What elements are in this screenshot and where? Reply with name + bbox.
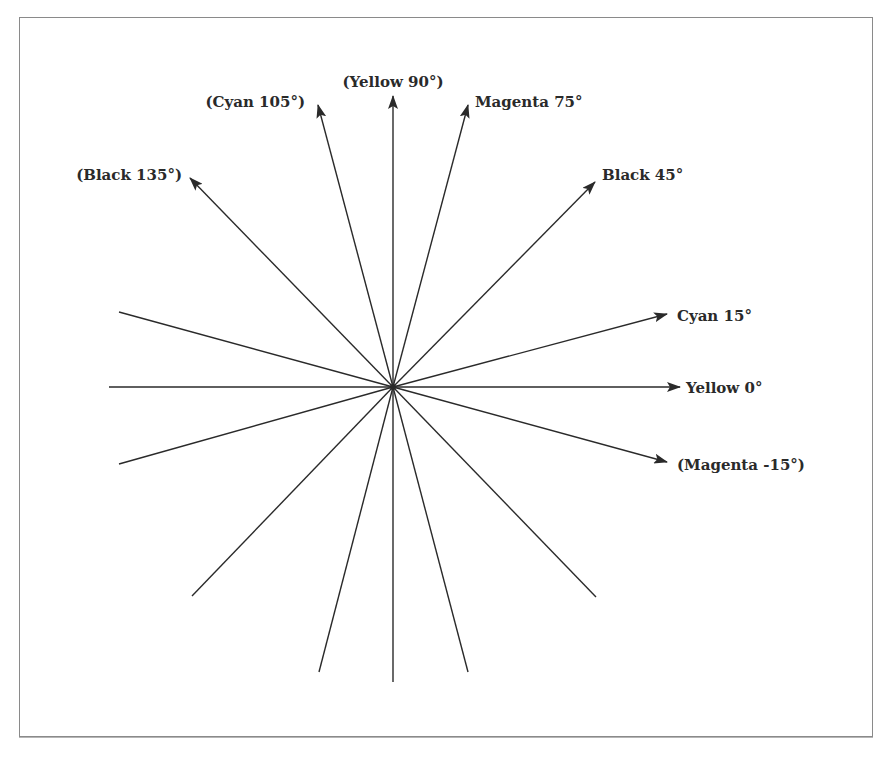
plain-lines-group <box>109 312 596 682</box>
screen-angle-diagram: Yellow 0°Cyan 15°Black 45°Magenta 75°(Ye… <box>0 0 892 762</box>
arrow-magenta-neg15-icon <box>393 387 667 462</box>
arrow-cyan-105-icon <box>318 105 393 387</box>
label-cyan-15: Cyan 15° <box>677 307 752 325</box>
ray-line-150 <box>119 312 393 387</box>
label-black-45: Black 45° <box>602 166 683 184</box>
arrow-cyan-15-icon <box>393 314 667 387</box>
labels-group: Yellow 0°Cyan 15°Black 45°Magenta 75°(Ye… <box>76 73 805 474</box>
arrow-magenta-75-icon <box>393 105 468 387</box>
ray-line-225 <box>192 387 393 596</box>
label-magenta-75: Magenta 75° <box>475 93 583 111</box>
ray-line-315 <box>393 387 596 597</box>
arrow-black-135-icon <box>190 178 393 387</box>
label-yellow-90: (Yellow 90°) <box>342 73 443 91</box>
label-black-135: (Black 135°) <box>76 166 182 184</box>
label-yellow-0: Yellow 0° <box>685 379 762 397</box>
ray-line-210 <box>119 387 393 464</box>
arrow-lines-group <box>190 96 680 462</box>
label-cyan-105: (Cyan 105°) <box>205 93 305 111</box>
arrow-black-45-icon <box>393 182 595 387</box>
label-magenta-neg15: (Magenta -15°) <box>677 456 805 474</box>
ray-line-255 <box>319 387 393 672</box>
ray-line-285 <box>393 387 468 672</box>
